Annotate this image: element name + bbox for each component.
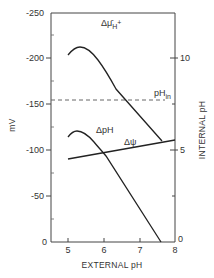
tick-label-right: 10 bbox=[180, 53, 190, 63]
y2-axis-title: INTERNAL pH bbox=[197, 101, 207, 159]
ph-in-label: pHin bbox=[154, 88, 171, 100]
tick-label-bottom: 5 bbox=[65, 245, 70, 255]
delta-mu-curve bbox=[68, 47, 162, 141]
delta-ph-curve bbox=[68, 131, 161, 242]
delta-ph-label: ΔpH bbox=[96, 125, 114, 135]
left-tick-labels: -250 -200 -150 -100 -50 0 bbox=[26, 8, 47, 247]
tick-label-right: 0 bbox=[178, 234, 183, 244]
tick-label-left: -200 bbox=[26, 53, 44, 63]
tick-label-bottom: 6 bbox=[101, 245, 106, 255]
tick-label-left: -250 bbox=[26, 8, 44, 18]
delta-mu-label: Δμ̄H+ bbox=[101, 18, 121, 30]
tick-label-left: 0 bbox=[42, 237, 47, 247]
bottom-ticks bbox=[68, 238, 140, 242]
right-ticks bbox=[170, 58, 178, 196]
y-axis-title: mV bbox=[7, 118, 17, 131]
bottom-tick-labels: 5 6 7 8 bbox=[65, 245, 177, 255]
tick-label-left: -100 bbox=[26, 145, 44, 155]
delta-psi-line bbox=[68, 140, 175, 159]
right-tick-labels: 10 5 0 bbox=[178, 53, 190, 244]
x-axis-title: EXTERNAL pH bbox=[81, 260, 142, 270]
tick-label-left: -50 bbox=[31, 191, 44, 201]
tick-label-bottom: 8 bbox=[172, 245, 177, 255]
left-major-ticks bbox=[46, 58, 51, 196]
chart-canvas: -250 -200 -150 -100 -50 0 10 5 0 5 6 7 8… bbox=[0, 0, 214, 278]
tick-label-left: -150 bbox=[26, 99, 44, 109]
tick-label-bottom: 7 bbox=[137, 245, 142, 255]
delta-psi-label: Δψ bbox=[124, 137, 136, 147]
tick-label-right: 5 bbox=[180, 145, 185, 155]
